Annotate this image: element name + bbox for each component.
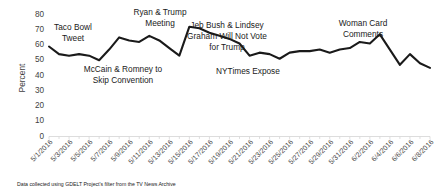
annotation-line: Ryan & Trump	[133, 7, 186, 17]
y-tick-label: 20	[35, 101, 45, 110]
annotation-line: McCain & Romney to	[84, 64, 163, 74]
annotation-line: Taco Bowl	[54, 22, 92, 32]
annotation-line: for Trump	[209, 42, 245, 52]
annotation-line: Graham Will Not Vote	[187, 31, 267, 41]
line-chart: 80 70 60 50 40 30 20 10 0 Percent 5/1/20…	[0, 0, 434, 195]
chart-container: 80 70 60 50 40 30 20 10 0 Percent 5/1/20…	[0, 0, 434, 195]
annotation-nytimes-expose: NYTimes Expose	[216, 66, 280, 76]
y-tick-label: 50	[35, 55, 45, 64]
chart-footnote: Data collected using GDELT Project's fil…	[17, 181, 176, 187]
y-tick-label: 30	[35, 86, 45, 95]
y-axis-title: Percent	[17, 63, 27, 93]
annotation-line: NYTimes Expose	[216, 66, 280, 76]
annotation-line: Woman Card	[339, 18, 388, 28]
annotation-taco-bowl-tweet: Taco Bowl Tweet	[54, 22, 92, 43]
y-axis-group: 80 70 60 50 40 30 20 10 0 Percent	[17, 10, 44, 141]
x-tick-labels: 5/1/20165/3/20165/5/20165/7/20165/9/2016…	[29, 138, 434, 166]
annotation-jeb-bush-lindsey-graham: Jeb Bush & Lindsey Graham Will Not Vote …	[187, 20, 267, 52]
y-tick-label: 70	[35, 25, 45, 34]
y-tick-label: 0	[39, 132, 44, 141]
annotation-line: Comments	[343, 29, 383, 39]
x-tick-label: 6/8/2016	[410, 138, 434, 163]
y-tick-label: 60	[35, 40, 45, 49]
annotation-woman-card-comments: Woman Card Comments	[339, 18, 388, 39]
annotation-line: Skip Convention	[93, 75, 154, 85]
annotation-line: Tweet	[62, 33, 85, 43]
annotation-ryan-trump-meeting: Ryan & Trump Meeting	[133, 7, 186, 28]
annotation-mccain-romney-skip-convention: McCain & Romney to Skip Convention	[84, 64, 163, 85]
y-tick-label: 40	[35, 71, 45, 80]
x-axis-group: 5/1/20165/3/20165/5/20165/7/20165/9/2016…	[29, 137, 434, 167]
y-tick-label: 80	[35, 10, 45, 19]
annotation-line: Jeb Bush & Lindsey	[190, 20, 264, 30]
annotations-group: Taco Bowl Tweet McCain & Romney to Skip …	[54, 7, 388, 85]
annotation-line: Meeting	[145, 18, 175, 28]
y-tick-label: 10	[35, 116, 45, 125]
